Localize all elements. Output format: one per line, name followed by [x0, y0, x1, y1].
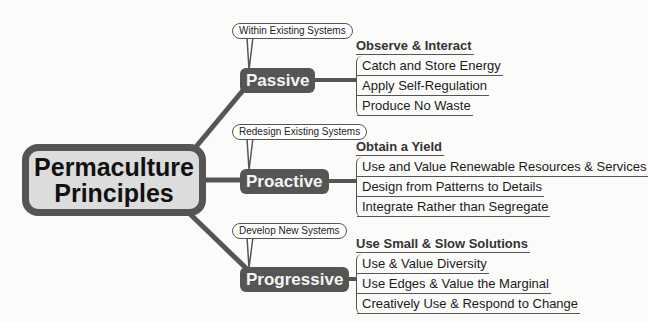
principle-item: Produce No Waste	[357, 96, 473, 116]
principle-group-passive: Observe & Interact Catch and Store Energ…	[356, 36, 503, 116]
principle-item: Creatively Use & Respond to Change	[357, 294, 580, 314]
principle-item: Apply Self-Regulation	[357, 76, 489, 96]
principle-item: Use & Value Diversity	[357, 254, 489, 274]
principle-item: Design from Patterns to Details	[357, 177, 544, 197]
branch-node-proactive: Proactive	[240, 169, 329, 194]
principle-group-progressive: Use Small & Slow Solutions Use & Value D…	[356, 234, 580, 314]
group-title: Observe & Interact	[356, 38, 474, 55]
group-title: Obtain a Yield	[356, 139, 444, 156]
callout-passive: Within Existing Systems	[232, 23, 353, 39]
root-node: Permaculture Principles	[22, 144, 206, 216]
callout-proactive: Redesign Existing Systems	[232, 124, 367, 140]
principle-item: Integrate Rather than Segregate	[357, 197, 550, 217]
root-title-line2: Principles	[34, 180, 194, 206]
branch-node-passive: Passive	[240, 68, 315, 93]
principle-item: Use and Value Renewable Resources & Serv…	[357, 157, 648, 177]
principle-item: Use Edges & Value the Marginal	[357, 274, 551, 294]
callout-progressive: Develop New Systems	[232, 223, 347, 239]
branch-node-progressive: Progressive	[240, 267, 349, 292]
group-title: Use Small & Slow Solutions	[356, 236, 530, 253]
root-title-line1: Permaculture	[34, 154, 194, 180]
principle-group-proactive: Obtain a Yield Use and Value Renewable R…	[356, 137, 648, 217]
principle-item: Catch and Store Energy	[357, 56, 503, 76]
